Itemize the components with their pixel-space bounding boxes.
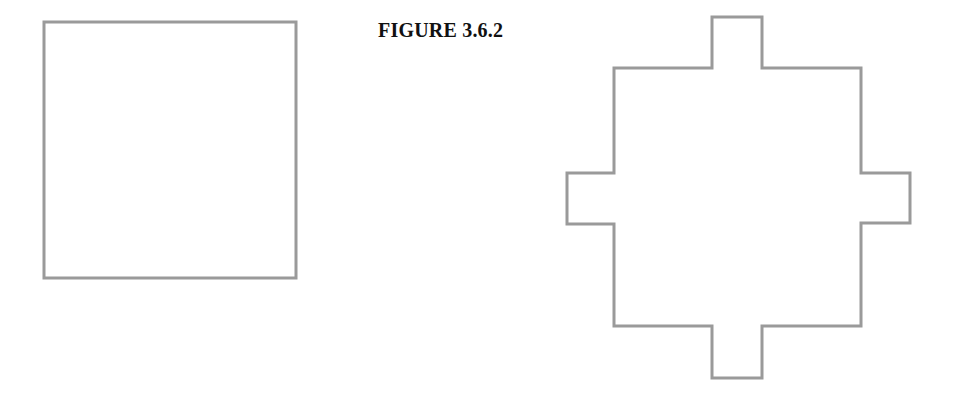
square-shape xyxy=(44,22,296,278)
cross-shape xyxy=(567,17,910,378)
figure-canvas xyxy=(0,0,955,395)
figure-caption: FIGURE 3.6.2 xyxy=(378,19,503,42)
